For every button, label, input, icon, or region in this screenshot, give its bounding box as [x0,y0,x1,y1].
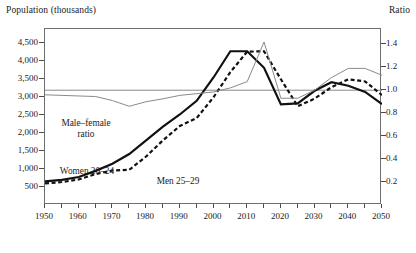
x-tick [381,204,382,208]
series-line-0 [45,51,382,181]
x-tick [111,204,112,208]
x-tick [78,204,79,208]
y-tick [39,150,44,151]
y2-tick-label: 0.6 [386,131,416,140]
x-tick [246,204,247,208]
y-tick [39,96,44,97]
x-tick [229,204,230,208]
annotation-women-20-24: Women 20–24 [44,166,130,177]
chart-figure: Population (thousands) Ratio 5001,0001,5… [0,0,416,253]
y-tick [39,42,44,43]
y-tick [39,78,44,79]
annotation-male-female-ratio: Male–female ratio [44,118,128,139]
x-tick [128,204,129,208]
y2-tick-label: 0.2 [386,177,416,186]
y-tick-label: 4,500 [0,38,38,47]
y2-tick-label: 1.4 [386,39,416,48]
x-tick [297,204,298,208]
y-tick-label: 2,000 [0,128,38,137]
y2-tick-label: 0.8 [386,108,416,117]
y2-tick-label: 1.0 [386,85,416,94]
x-tick [61,204,62,208]
y-tick-label: 4,000 [0,56,38,65]
x-tick [364,204,365,208]
x-tick [196,204,197,208]
y-tick [39,114,44,115]
right-axis-title: Ratio [389,5,410,15]
x-tick [179,204,180,208]
x-tick-label: 2050 [361,212,401,221]
x-tick [44,204,45,208]
y-tick-label: 3,500 [0,74,38,83]
x-tick [213,204,214,208]
x-tick [95,204,96,208]
x-tick [330,204,331,208]
annotation-men-25-29: Men 25–29 [139,176,217,187]
x-tick [145,204,146,208]
x-tick [280,204,281,208]
x-tick [314,204,315,208]
y-tick-label: 1,000 [0,164,38,173]
x-tick [347,204,348,208]
y-tick-label: 2,500 [0,110,38,119]
left-axis-title: Population (thousands) [6,5,96,15]
x-tick [263,204,264,208]
y-tick-label: 500 [0,182,38,191]
y-tick-label: 1,500 [0,146,38,155]
y2-tick-label: 1.2 [386,62,416,71]
y-tick [39,60,44,61]
y-tick-label: 3,000 [0,92,38,101]
y2-tick-label: 0.4 [386,154,416,163]
y-tick [39,186,44,187]
x-tick [162,204,163,208]
